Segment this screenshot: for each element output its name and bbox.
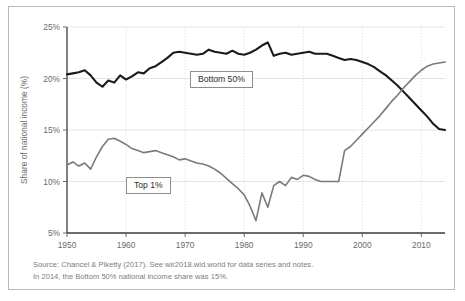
- axis-ticks: 5%10%15%20%25%19501960197019801990200020…: [43, 22, 431, 250]
- y-tick-label: 25%: [43, 22, 60, 32]
- data-series: [67, 42, 445, 220]
- series-label-bottom-50: Bottom 50%: [190, 71, 253, 88]
- x-tick-label: 2000: [353, 240, 372, 250]
- source-note: Source: Chancel & Piketty (2017). See wi…: [33, 259, 433, 283]
- y-axis-title: Share of national income (%): [19, 76, 29, 184]
- x-tick-label: 1990: [294, 240, 313, 250]
- chart-plot-area: 5%10%15%20%25%19501960197019801990200020…: [9, 7, 456, 291]
- x-tick-label: 1950: [58, 240, 77, 250]
- y-tick-label: 5%: [48, 228, 61, 238]
- x-tick-label: 1980: [235, 240, 254, 250]
- chart-figure: 5%10%15%20%25%19501960197019801990200020…: [8, 6, 455, 290]
- x-tick-label: 2010: [412, 240, 431, 250]
- y-tick-label: 20%: [43, 74, 60, 84]
- series-line-top-1: [67, 62, 445, 221]
- y-tick-label: 15%: [43, 125, 60, 135]
- source-note-line-2: In 2014, the Bottom 50% national income …: [33, 271, 433, 283]
- grid-lines: [67, 27, 445, 233]
- y-axis-title-text: Share of national income (%): [19, 76, 29, 184]
- source-note-line-1: Source: Chancel & Piketty (2017). See wi…: [33, 259, 433, 271]
- series-line-bottom-50: [67, 42, 445, 130]
- x-tick-label: 1960: [117, 240, 136, 250]
- x-tick-label: 1970: [176, 240, 195, 250]
- series-label-top-1: Top 1%: [126, 177, 171, 194]
- y-tick-label: 10%: [43, 177, 60, 187]
